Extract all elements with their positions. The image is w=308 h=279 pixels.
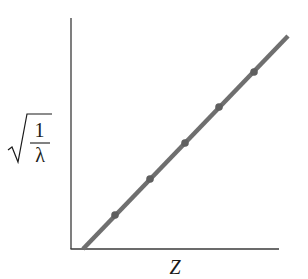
moseley-chart: 1 λ Z [0, 0, 308, 279]
x-axis-label: Z [169, 256, 181, 278]
data-point [181, 139, 189, 147]
y-label-numerator: 1 [35, 119, 45, 141]
radical-sign [8, 114, 52, 162]
data-point [215, 103, 223, 111]
data-point [146, 175, 154, 183]
y-label-denominator: λ [35, 144, 45, 166]
data-point [250, 68, 258, 76]
y-axis-label: 1 λ [8, 114, 52, 166]
data-point [111, 211, 119, 219]
